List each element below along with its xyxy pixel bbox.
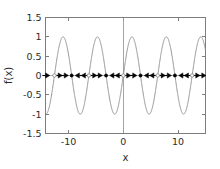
equilibrium-point-stable [139,74,142,77]
x-tick-label: -10 [61,136,77,147]
y-tick-label: 1 [35,31,41,42]
y-tick-label: -1 [32,109,41,120]
x-tick-label: 10 [172,136,184,147]
plot-svg: -10010 -1.5-1-0.500.511.5 x f(x) [0,0,220,169]
equilibrium-point-unstable [156,74,159,77]
y-tick-label: 0.5 [26,51,41,62]
chart-figure: -10010 -1.5-1-0.500.511.5 x f(x) [0,0,220,169]
y-axis-title: f(x) [3,67,14,84]
equilibrium-point-stable [70,74,73,77]
y-tick-label: 1.5 [26,12,41,23]
equilibrium-point-unstable [122,74,125,77]
equilibrium-point-stable [173,74,176,77]
equilibrium-point-unstable [87,74,90,77]
equilibrium-point-unstable [190,74,193,77]
x-axis-title: x [123,152,129,163]
equilibrium-point-stable [105,74,108,77]
equilibrium-point-unstable [53,74,56,77]
plot-background [0,0,220,169]
y-tick-label: -1.5 [23,128,42,139]
y-tick-label: 0 [35,70,41,81]
y-tick-label: -0.5 [23,89,42,100]
x-tick-label: 0 [120,136,126,147]
